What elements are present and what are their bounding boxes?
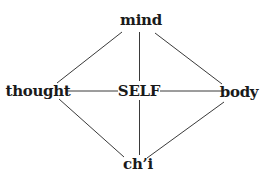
node-body: body: [220, 85, 259, 100]
self-concept-diagram: mind thought SELF body ch’i: [0, 0, 269, 179]
node-self: SELF: [118, 84, 160, 99]
edge-mind-body: [155, 33, 222, 84]
node-thought: thought: [6, 84, 71, 99]
edge-thought-chi: [59, 99, 124, 157]
edge-mind-thought: [57, 32, 122, 83]
node-mind: mind: [120, 13, 162, 28]
edge-body-chi: [147, 102, 224, 158]
node-chi: ch’i: [123, 157, 153, 172]
